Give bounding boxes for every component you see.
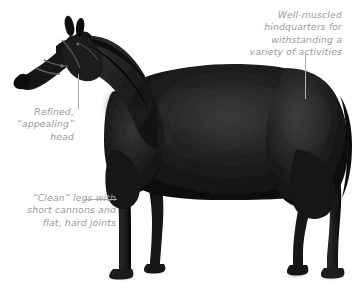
horse-conformation-figure: Well-muscled hindquarters for withstandi… bbox=[0, 0, 352, 296]
leader-line-hindquarters bbox=[305, 54, 306, 99]
annotation-legs: “Clean” legs with short cannons and flat… bbox=[4, 192, 116, 229]
annotation-head: Refined, “appealing” head bbox=[8, 106, 74, 143]
leader-line-head bbox=[78, 74, 79, 109]
annotation-hindquarters: Well-muscled hindquarters for withstandi… bbox=[200, 9, 342, 59]
